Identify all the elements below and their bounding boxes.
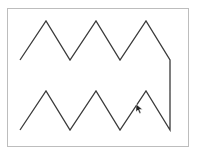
mouse-cursor-icon bbox=[136, 104, 144, 114]
zigzag-drawing bbox=[0, 0, 197, 156]
zigzag-polyline bbox=[20, 21, 170, 130]
